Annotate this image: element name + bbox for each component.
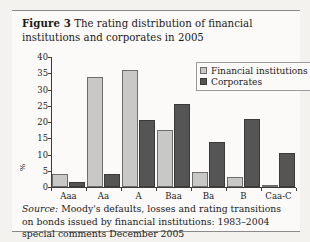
y-tick-label: 10	[37, 151, 48, 159]
x-tick-label: A	[135, 191, 141, 201]
y-tick-mark	[48, 138, 51, 139]
y-tick-mark	[48, 73, 51, 74]
y-tick-mark	[48, 90, 51, 91]
y-tick-mark	[48, 106, 51, 107]
legend-item: Financial institutions	[200, 65, 308, 76]
y-tick-label: 35	[37, 69, 48, 77]
x-tick-label: Baa	[165, 191, 182, 201]
figure-card: Figure 3 The rating distribution of fina…	[12, 10, 300, 232]
legend-item: Corporates	[200, 76, 308, 87]
bar-ba-fin	[192, 172, 208, 187]
bar-a-fin	[122, 70, 138, 187]
x-tick-label: Aaa	[60, 191, 76, 201]
y-tick-mark	[48, 155, 51, 156]
bar-aa-fin	[87, 77, 103, 188]
legend-swatch-fin	[200, 67, 207, 74]
y-axis-title: %	[18, 156, 27, 180]
source-note: Source: Moody's defaults, losses and rat…	[22, 203, 294, 241]
y-tick-label: 15	[37, 134, 48, 142]
chart-legend: Financial institutionsCorporates	[196, 62, 310, 91]
y-tick-label: 25	[37, 102, 48, 110]
legend-swatch-corp	[200, 78, 207, 85]
chart-plot: % 0510152025303540 AaaAaABaaBaBCaa-C Fin…	[12, 57, 300, 205]
y-tick-mark	[48, 122, 51, 123]
source-keyword: Source:	[22, 203, 58, 214]
bar-caa-c-fin	[262, 185, 278, 187]
y-axis-tick-labels: 0510152025303540	[28, 57, 48, 188]
figure-container: Figure 3 The rating distribution of fina…	[0, 0, 310, 242]
bar-aaa-fin	[52, 174, 68, 187]
bar-baa-corp	[174, 104, 190, 187]
x-tick-mark	[296, 188, 297, 191]
x-tick-label: Caa-C	[265, 191, 291, 201]
bar-ba-corp	[209, 142, 225, 188]
y-axis-line	[51, 57, 52, 188]
x-tick-label: Aa	[98, 191, 109, 201]
bar-aaa-corp	[69, 182, 85, 187]
source-text: Moody's defaults, losses and rating tran…	[22, 203, 281, 239]
bar-b-fin	[227, 177, 243, 187]
x-tick-label: B	[240, 191, 246, 201]
bar-b-corp	[244, 119, 260, 187]
y-tick-mark	[48, 171, 51, 172]
legend-label: Corporates	[211, 77, 262, 87]
figure-caption: Figure 3 The rating distribution of fina…	[22, 17, 292, 44]
bar-a-corp	[139, 120, 155, 187]
x-axis-line	[51, 187, 296, 188]
y-tick-label: 40	[37, 53, 48, 61]
x-tick-label: Ba	[203, 191, 214, 201]
y-tick-label: 20	[37, 118, 48, 126]
figure-label: Figure 3	[22, 17, 71, 29]
bar-aa-corp	[104, 174, 120, 187]
bar-baa-fin	[157, 130, 173, 187]
bar-caa-c-corp	[279, 153, 295, 187]
y-tick-mark	[48, 57, 51, 58]
y-tick-label: 30	[37, 86, 48, 94]
legend-label: Financial institutions	[211, 66, 308, 76]
